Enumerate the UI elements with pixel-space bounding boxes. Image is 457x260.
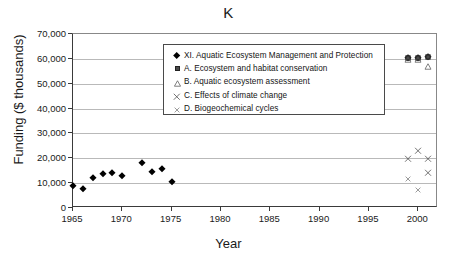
x-tick-label: 1990 [308, 213, 329, 224]
y-tick-label: 50,000 [0, 77, 66, 88]
legend-item[interactable]: A. Ecosystem and habitat conservation [170, 62, 379, 75]
data-point [415, 141, 423, 159]
data-point [424, 163, 432, 181]
x-tick-mark [269, 207, 270, 211]
data-point [110, 170, 115, 175]
x-tick-label: 2000 [407, 213, 428, 224]
x-tick-mark [171, 207, 172, 211]
x-axis-label: Year [0, 236, 457, 251]
legend-item[interactable]: D. Biogeochemical cycles [170, 102, 379, 115]
x-tick-mark [319, 207, 320, 211]
y-tick-label: 40,000 [0, 102, 66, 113]
y-tick-label: 20,000 [0, 152, 66, 163]
data-point [405, 49, 412, 67]
x-tick-label: 1980 [209, 213, 230, 224]
chart-legend: XI. Aquatic Ecosystem Management and Pro… [163, 44, 385, 115]
data-point [70, 183, 75, 188]
legend-item-label: B. Aquatic ecosystem assessment [184, 77, 310, 86]
data-point [405, 148, 413, 166]
legend-item-label: A. Ecosystem and habitat conservation [184, 64, 327, 73]
x-tick-label: 1970 [111, 213, 132, 224]
y-tick-label: 60,000 [0, 52, 66, 63]
data-point [139, 161, 144, 166]
y-tick-label: 70,000 [0, 28, 66, 39]
legend-item[interactable]: XI. Aquatic Ecosystem Management and Pro… [170, 49, 379, 62]
x-tick-label: 1975 [160, 213, 181, 224]
legend-marker-square-icon [170, 66, 184, 71]
legend-item[interactable]: B. Aquatic ecosystem assessment [170, 75, 379, 88]
gridline [73, 133, 436, 134]
x-tick-label: 1965 [61, 213, 82, 224]
x-tick-label: 1985 [259, 213, 280, 224]
y-tick-label: 30,000 [0, 127, 66, 138]
data-point [169, 179, 174, 184]
data-point [415, 179, 421, 197]
data-point [415, 49, 422, 67]
legend-item-label: D. Biogeochemical cycles [184, 104, 279, 113]
legend-marker-diamond-icon [170, 53, 184, 58]
data-point [425, 56, 432, 74]
x-tick-mark [417, 207, 418, 211]
y-tick-label: 0 [0, 202, 66, 213]
legend-marker-x-small-icon [170, 99, 184, 117]
data-point [100, 172, 105, 177]
x-tick-mark [220, 207, 221, 211]
chart-title: K [0, 4, 457, 21]
data-point [90, 175, 95, 180]
gridline [73, 183, 436, 184]
x-tick-label: 1995 [357, 213, 378, 224]
chart-container: K Funding ($ thousands) Year 010,00020,0… [0, 0, 457, 260]
data-point [120, 173, 125, 178]
data-point [149, 169, 154, 174]
gridline [73, 158, 436, 159]
x-tick-mark [368, 207, 369, 211]
legend-item-label: C. Effects of climate change [184, 91, 287, 100]
y-tick-label: 10,000 [0, 177, 66, 188]
x-tick-mark [121, 207, 122, 211]
data-point [405, 168, 411, 186]
legend-item[interactable]: C. Effects of climate change [170, 89, 379, 102]
data-point [159, 167, 164, 172]
data-point [80, 187, 85, 192]
x-tick-mark [72, 207, 73, 211]
legend-item-label: XI. Aquatic Ecosystem Management and Pro… [184, 51, 373, 60]
